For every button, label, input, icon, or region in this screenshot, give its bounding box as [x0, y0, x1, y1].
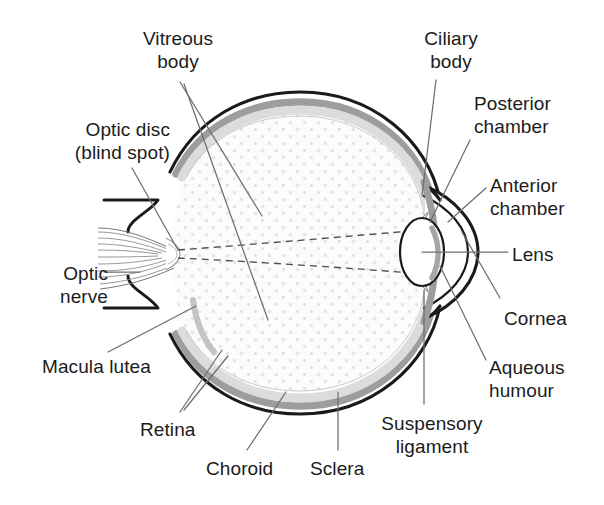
label-lens: Lens	[512, 243, 582, 266]
label-cornea: Cornea	[504, 307, 594, 330]
label-retina: Retina	[140, 418, 230, 441]
label-posterior-chamber: Posterior chamber	[474, 92, 598, 138]
label-vitreous-body: Vitreous body	[132, 27, 224, 73]
label-sclera: Sclera	[310, 457, 400, 480]
label-optic-disc: Optic disc (blind spot)	[18, 118, 170, 164]
label-anterior-chamber: Anterior chamber	[490, 174, 604, 220]
label-ciliary-body: Ciliary body	[408, 27, 494, 73]
eye-diagram-canvas: Vitreous body Optic disc (blind spot) Op…	[0, 0, 604, 505]
optic-nerve-shape	[98, 194, 174, 312]
label-aqueous-humour: Aqueous humour	[489, 356, 599, 402]
label-suspensory-ligament: Suspensory ligament	[368, 412, 496, 458]
label-macula-lutea: Macula lutea	[42, 355, 212, 378]
label-optic-nerve: Optic nerve	[12, 262, 108, 308]
label-choroid: Choroid	[206, 457, 306, 480]
